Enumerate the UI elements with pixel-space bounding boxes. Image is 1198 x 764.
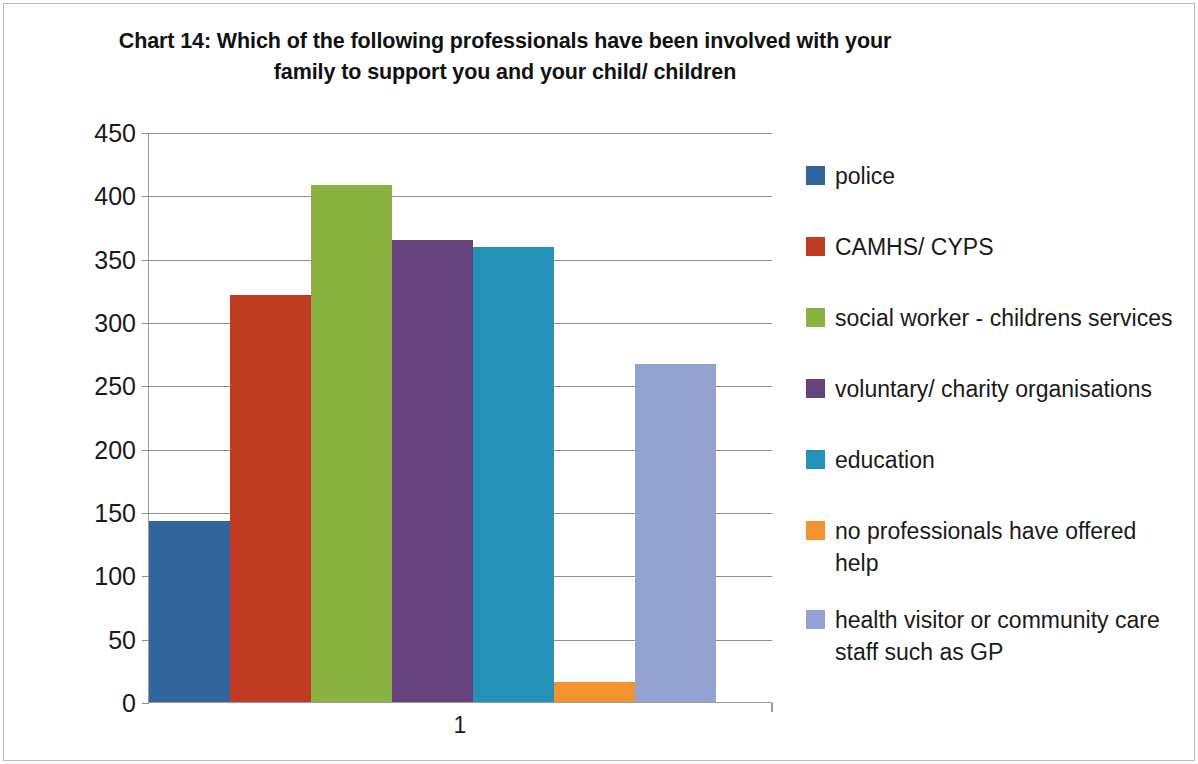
bar-fill bbox=[473, 247, 554, 702]
y-axis-tick-label: 150 bbox=[94, 499, 136, 528]
y-axis-tick-mark bbox=[142, 133, 149, 134]
y-axis-tick-mark bbox=[142, 323, 149, 324]
plot-area: 050100150200250300350400450 bbox=[148, 133, 772, 703]
y-axis-tick-mark bbox=[142, 386, 149, 387]
bar-group bbox=[149, 133, 772, 702]
bar-fill bbox=[635, 364, 716, 702]
y-axis-tick-mark bbox=[142, 513, 149, 514]
x-axis-end-tick bbox=[771, 703, 773, 712]
legend-item[interactable]: no professionals have offered help bbox=[806, 515, 1186, 579]
legend-swatch-icon bbox=[806, 379, 825, 398]
legend-item[interactable]: education bbox=[806, 444, 1186, 476]
y-axis-tick-label: 300 bbox=[94, 309, 136, 338]
legend-swatch-icon bbox=[806, 166, 825, 185]
legend-item-label: CAMHS/ CYPS bbox=[835, 231, 993, 263]
legend-item-label: education bbox=[835, 444, 935, 476]
legend-swatch-icon bbox=[806, 450, 825, 469]
y-axis-tick-label: 250 bbox=[94, 372, 136, 401]
legend-item-label: no professionals have offered help bbox=[835, 515, 1186, 579]
y-axis-tick-mark bbox=[142, 640, 149, 641]
legend-swatch-icon bbox=[806, 308, 825, 327]
y-axis-tick-label: 0 bbox=[122, 689, 136, 718]
chart-legend: policeCAMHS/ CYPSsocial worker - childre… bbox=[806, 160, 1186, 693]
y-axis-tick-label: 200 bbox=[94, 435, 136, 464]
plot-wrapper: 050100150200250300350400450 1 bbox=[0, 0, 800, 764]
bar-fill bbox=[311, 185, 392, 702]
legend-swatch-icon bbox=[806, 610, 825, 629]
legend-item[interactable]: health visitor or community care staff s… bbox=[806, 604, 1186, 668]
legend-item-label: social worker - childrens services bbox=[835, 302, 1172, 334]
x-axis-tick-label: 1 bbox=[148, 712, 772, 739]
y-axis-tick-label: 50 bbox=[108, 625, 136, 654]
y-axis-tick-label: 400 bbox=[94, 182, 136, 211]
bar-fill bbox=[230, 295, 311, 702]
legend-swatch-icon bbox=[806, 521, 825, 540]
legend-item[interactable]: police bbox=[806, 160, 1186, 192]
legend-item-label: voluntary/ charity organisations bbox=[835, 373, 1152, 405]
legend-item-label: police bbox=[835, 160, 895, 192]
bar-fill bbox=[149, 521, 230, 702]
legend-item[interactable]: CAMHS/ CYPS bbox=[806, 231, 1186, 263]
legend-item[interactable]: social worker - childrens services bbox=[806, 302, 1186, 334]
y-axis-tick-mark bbox=[142, 196, 149, 197]
bar-fill bbox=[554, 682, 635, 702]
y-axis-tick-mark bbox=[142, 260, 149, 261]
legend-item[interactable]: voluntary/ charity organisations bbox=[806, 373, 1186, 405]
y-axis-tick-mark bbox=[142, 576, 149, 577]
chart-screenshot: Chart 14: Which of the following profess… bbox=[0, 0, 1198, 764]
y-axis-tick-label: 450 bbox=[94, 119, 136, 148]
y-axis-tick-label: 350 bbox=[94, 245, 136, 274]
y-axis-tick-label: 100 bbox=[94, 562, 136, 591]
bar-fill bbox=[392, 240, 473, 702]
y-axis-tick-mark bbox=[142, 450, 149, 451]
legend-item-label: health visitor or community care staff s… bbox=[835, 604, 1186, 668]
legend-swatch-icon bbox=[806, 237, 825, 256]
y-axis-tick-mark bbox=[142, 703, 149, 704]
